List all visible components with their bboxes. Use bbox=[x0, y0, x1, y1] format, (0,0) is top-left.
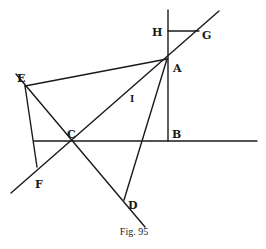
label-I: I bbox=[130, 92, 134, 104]
label-C: C bbox=[67, 128, 76, 141]
label-B: B bbox=[172, 128, 181, 141]
label-H: H bbox=[152, 26, 162, 39]
diagram-canvas: H G A E I C B F D Fig. 95 bbox=[0, 0, 266, 249]
line-EF bbox=[25, 86, 37, 167]
line-FCAG bbox=[11, 11, 219, 193]
figure-caption: Fig. 95 bbox=[120, 226, 148, 237]
line-EA bbox=[25, 59, 167, 86]
label-E: E bbox=[17, 72, 25, 85]
line-AD bbox=[124, 59, 167, 200]
label-G: G bbox=[202, 29, 211, 42]
line-ECD bbox=[16, 74, 145, 227]
label-F: F bbox=[35, 178, 43, 191]
label-A: A bbox=[172, 62, 182, 75]
label-D: D bbox=[128, 199, 138, 212]
geometry-figure: H G A E I C B F D Fig. 95 bbox=[0, 0, 266, 249]
